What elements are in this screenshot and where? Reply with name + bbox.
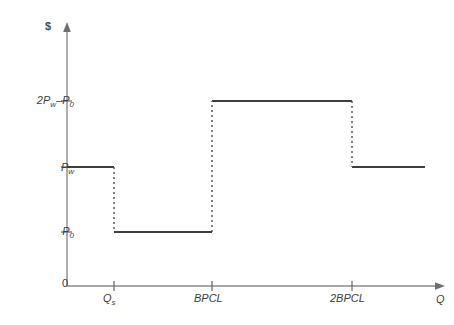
y-axis-arrow xyxy=(63,22,71,32)
y-high-subscript-2: 0 xyxy=(70,100,74,109)
origin-label: 0 xyxy=(62,277,68,289)
y-tick-label-mid: Pw xyxy=(61,161,74,176)
x-tick-label-2bpcl: 2BPCL xyxy=(330,292,365,304)
y-axis-title: $ xyxy=(45,20,51,32)
x-qs-symbol: Q xyxy=(103,292,112,304)
x-axis-title: Q xyxy=(436,293,445,305)
x-tick-label-bpcl: BPCL xyxy=(194,292,223,304)
x-tick-label-qs: Qs xyxy=(103,292,116,307)
x-axis-arrow xyxy=(435,282,445,290)
y-mid-subscript: w xyxy=(68,167,74,176)
y-tick-label-high: 2Pw–P0 xyxy=(37,94,74,109)
x-qs-subscript: s xyxy=(112,298,116,307)
price-schedule-chart: $ Q 2Pw–P0 Pw P0 0 Qs BPCL 2BPCL xyxy=(0,0,454,325)
y-high-symbol-2: P xyxy=(62,94,69,106)
y-low-subscript: 0 xyxy=(70,231,74,240)
y-low-symbol: P xyxy=(62,225,69,237)
y-tick-label-low: P0 xyxy=(62,225,74,240)
